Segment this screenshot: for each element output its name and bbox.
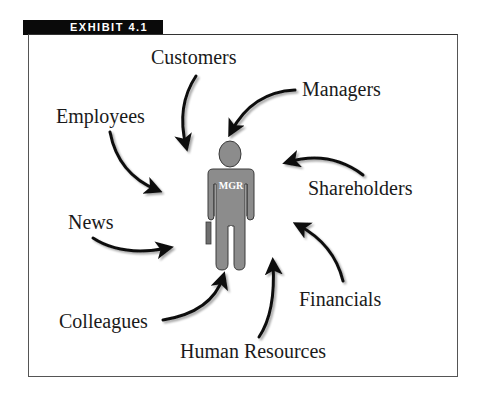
manager-label: MGR: [219, 180, 244, 191]
source-shareholders: Shareholders: [308, 177, 412, 200]
briefcase-icon: [206, 222, 211, 244]
arrow-employees: [110, 132, 157, 190]
arrow-financials: [298, 225, 343, 281]
arrow-customers: [183, 76, 196, 146]
source-customers: Customers: [151, 46, 237, 69]
arrow-colleagues: [163, 277, 223, 320]
source-colleagues: Colleagues: [59, 310, 148, 333]
arrow-managers: [231, 90, 295, 132]
arrow-shareholders: [288, 158, 363, 175]
source-financials: Financials: [299, 288, 381, 311]
source-employees: Employees: [56, 105, 145, 128]
manager-figure-icon: MGR: [206, 141, 254, 270]
source-human-resources: Human Resources: [180, 340, 326, 363]
source-news: News: [68, 211, 114, 234]
arrow-news: [93, 238, 168, 251]
source-managers: Managers: [302, 78, 381, 101]
arrow-human-resources: [259, 263, 273, 337]
